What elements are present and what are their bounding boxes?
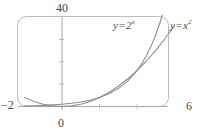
x-axis-max-label: 6 <box>186 100 192 112</box>
curve-quadratic <box>25 26 175 107</box>
graph-figure: 40 −2 0 6 y=2x y=x2 <box>0 0 202 134</box>
curve-exponential <box>25 15 163 106</box>
y-axis-max-label: 40 <box>56 2 68 14</box>
curve-label-quadratic: y=x2 <box>170 20 192 31</box>
quad-operator: = <box>175 19 183 31</box>
curve-label-exponential: y=2x <box>113 20 135 31</box>
exp-exponent: x <box>132 18 135 26</box>
quad-exponent: 2 <box>188 18 192 26</box>
exp-operator: = <box>118 19 126 31</box>
x-axis-min-label: −2 <box>1 99 14 111</box>
origin-label: 0 <box>58 117 64 129</box>
